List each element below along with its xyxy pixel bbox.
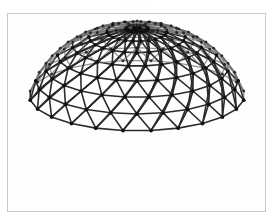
dome-node	[75, 51, 79, 55]
dome-node	[132, 20, 135, 23]
dome-node	[130, 24, 133, 27]
dome-node	[175, 76, 179, 80]
dome-node	[204, 66, 208, 70]
dome-node	[38, 71, 41, 74]
dome-node	[89, 39, 93, 43]
dome-node	[186, 108, 190, 112]
dome-node	[191, 89, 195, 93]
dome-node	[195, 51, 199, 55]
dome-node	[226, 69, 230, 73]
dome-node	[95, 76, 99, 80]
dome-node	[111, 24, 114, 27]
dome-node	[135, 112, 139, 116]
dome-node	[79, 72, 83, 76]
dome-node	[124, 36, 127, 39]
dome-node	[195, 35, 198, 38]
dome-node	[221, 115, 225, 119]
dome-node	[109, 47, 112, 50]
dome-node	[187, 56, 191, 60]
dome-node	[96, 27, 99, 30]
dome-node	[160, 63, 164, 67]
dome-node	[235, 107, 239, 111]
dome-node	[59, 47, 62, 50]
dome-node	[187, 30, 190, 33]
dome-strut	[111, 113, 137, 114]
dome-node	[80, 42, 83, 45]
dome-node	[242, 90, 245, 93]
dome-node	[153, 37, 157, 41]
dome-node	[156, 78, 160, 82]
dome-node	[44, 69, 48, 73]
dome-node	[135, 51, 139, 55]
dome-node	[108, 26, 111, 29]
dome-node	[48, 63, 51, 66]
caption-text-remnant: · · ·	[0, 0, 275, 6]
dome-node	[71, 41, 74, 44]
dome-node	[56, 53, 60, 57]
dome-strut	[116, 80, 137, 81]
dome-node	[165, 29, 168, 32]
dome-node	[175, 31, 178, 34]
dome-node	[221, 73, 224, 76]
dome-node	[123, 95, 127, 99]
dome-node	[84, 108, 88, 112]
dome-node	[149, 129, 153, 133]
dome-node	[235, 81, 238, 84]
dome-node	[66, 66, 70, 70]
dome-node	[101, 46, 105, 50]
dome-node	[220, 77, 224, 81]
dome-node	[139, 39, 143, 43]
dome-node	[101, 24, 104, 27]
dome-node	[94, 126, 98, 130]
dome-node	[127, 64, 131, 68]
dome-node	[163, 33, 167, 37]
dome-node	[106, 29, 109, 32]
dome-node	[192, 35, 195, 38]
dome-node	[212, 47, 215, 50]
dome-node	[207, 56, 210, 59]
dome-node	[201, 66, 204, 69]
dome-node	[183, 35, 187, 39]
dome-node	[36, 107, 40, 111]
dome-node	[127, 22, 130, 25]
dome-node	[148, 20, 151, 23]
dome-node	[150, 59, 153, 62]
dome-node	[186, 51, 189, 54]
dome-node	[62, 84, 66, 88]
dome-node	[117, 22, 120, 25]
dome-node	[67, 41, 70, 44]
dome-node	[110, 63, 114, 67]
dome-node	[115, 28, 118, 31]
dome-node	[50, 115, 54, 119]
dome-node	[233, 88, 237, 92]
dome-node	[169, 46, 173, 50]
dome-strut	[137, 113, 163, 114]
dome-node	[144, 64, 148, 68]
dome-node	[212, 60, 216, 64]
dome-node	[147, 36, 150, 39]
dome-node	[200, 41, 203, 44]
dome-node	[201, 122, 205, 126]
dome-node	[154, 22, 157, 25]
dome-node	[223, 63, 226, 66]
dome-node	[242, 98, 246, 102]
dome-node	[100, 93, 104, 97]
dome-strut	[222, 79, 223, 117]
dome-node	[79, 35, 82, 38]
dome-node	[100, 38, 103, 41]
dome-node	[226, 62, 229, 65]
dome-node	[121, 59, 124, 62]
dome-node	[160, 24, 163, 27]
dome-node	[175, 27, 178, 30]
dome-node	[147, 95, 151, 99]
dome-node	[144, 22, 147, 25]
dome-node	[223, 96, 227, 100]
dome-node	[182, 39, 186, 43]
dome-node	[208, 84, 212, 88]
figure-page: · · ·	[0, 0, 275, 222]
dome-node	[177, 43, 181, 47]
dome-node	[170, 93, 174, 97]
dome-node	[161, 111, 165, 115]
dome-node	[50, 73, 53, 76]
dome-node	[208, 47, 211, 50]
